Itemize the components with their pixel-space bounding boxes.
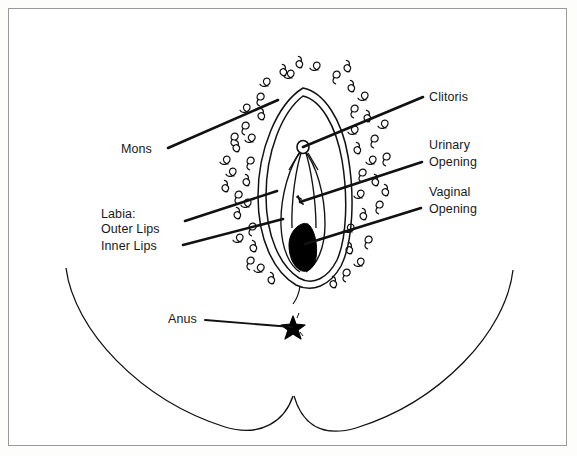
perineum-line [293,286,300,304]
label-outer-lips: Outer Lips [101,222,160,237]
label-mons: Mons [121,142,152,157]
label-vaginal-opening-line1: Vaginal [429,185,470,200]
label-clitoris: Clitoris [429,90,468,105]
label-labia-heading: Labia: [101,207,136,222]
label-urinary-opening-line1: Urinary [429,138,470,153]
leader-line-urinary-opening [300,162,422,202]
pubic-hair-top [284,56,351,83]
vaginal-opening-marker [289,223,317,271]
diagram-figure: Mons Labia: Outer Lips Inner Lips Clitor… [0,0,577,456]
leader-line-vaginal-opening [305,208,421,244]
label-vaginal-opening-line2: Opening [429,202,477,217]
leader-line-mons [168,100,278,148]
leader-lines [168,97,423,327]
anatomy-illustration [0,0,577,456]
leader-line-outer-lips [185,191,277,221]
leader-line-anus [205,320,292,327]
label-urinary-opening-line2: Opening [429,155,477,170]
buttock-curves [66,268,513,431]
leader-line-clitoris [303,97,423,147]
label-anus: Anus [168,312,197,327]
label-inner-lips: Inner Lips [101,239,157,254]
